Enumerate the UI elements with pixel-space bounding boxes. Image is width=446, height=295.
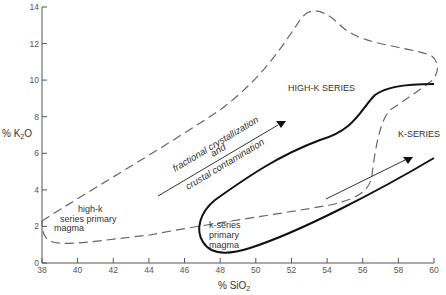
y-tick-14: 14 (30, 2, 40, 12)
y-tick-10: 10 (30, 75, 40, 85)
x-axis-label: % SiO2 (218, 280, 250, 292)
label-k-primary-3: magma (209, 240, 239, 250)
label-high-k-series: HIGH-K SERIES (288, 83, 355, 93)
y-tick-12: 12 (30, 39, 40, 49)
x-tick-labels: 38 40 42 44 46 48 50 52 54 56 58 60 (37, 265, 439, 275)
label-k-series: K-SERIES (398, 129, 440, 139)
y-tick-2: 2 (34, 221, 39, 231)
y-axis-label: % K2O (2, 128, 32, 140)
x-tick-42: 42 (109, 265, 119, 275)
y-tick-4: 4 (34, 185, 39, 195)
x-tick-38: 38 (37, 265, 47, 275)
x-tick-50: 50 (251, 265, 261, 275)
x-tick-58: 58 (394, 265, 404, 275)
y-tick-8: 8 (34, 112, 39, 122)
x-tick-44: 44 (144, 265, 154, 275)
x-tick-52: 52 (287, 265, 297, 275)
label-k-primary-2: primary (209, 230, 240, 240)
x-tick-60: 60 (429, 265, 439, 275)
label-high-k-primary-1: high-k (78, 204, 103, 214)
x-tick-56: 56 (358, 265, 368, 275)
k2o-vs-sio2-diagram: 0 2 4 6 8 10 12 14 38 40 42 44 46 48 50 … (0, 0, 446, 295)
y-tick-6: 6 (34, 148, 39, 158)
label-k-primary-1: k-series (209, 220, 241, 230)
x-tick-48: 48 (215, 265, 225, 275)
x-tick-54: 54 (322, 265, 332, 275)
label-high-k-primary-3: magma (54, 223, 84, 233)
x-tick-40: 40 (73, 265, 83, 275)
x-tick-46: 46 (180, 265, 190, 275)
